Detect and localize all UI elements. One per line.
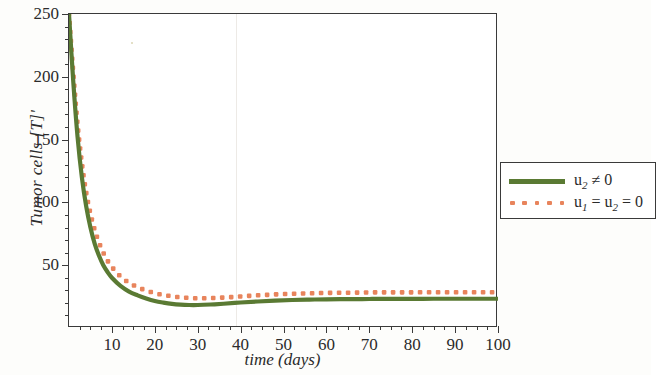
- x-axis-tick: [348, 326, 349, 330]
- x-axis-tick: [198, 326, 199, 333]
- plot-area: 50100150200250102030405060708090100: [68, 13, 497, 327]
- x-axis-tick: [498, 326, 499, 333]
- y-axis-tick: [62, 202, 69, 203]
- x-axis-tick: [477, 326, 478, 330]
- y-axis-tick: [65, 240, 69, 241]
- y-axis-tick-label: 250: [34, 4, 60, 24]
- x-axis-tick: [208, 326, 209, 330]
- x-axis-tick: [326, 326, 327, 333]
- legend-swatch-dotted-line: [509, 197, 565, 209]
- x-axis-tick: [251, 326, 252, 330]
- y-axis-tick: [65, 190, 69, 191]
- y-axis-tick: [65, 290, 69, 291]
- x-axis-tick: [434, 326, 435, 330]
- legend-label-u1-u2: u1 = u2 = 0: [574, 193, 643, 213]
- y-axis-tick: [65, 228, 69, 229]
- y-axis-tick: [65, 177, 69, 178]
- x-axis-tick: [144, 326, 145, 330]
- y-axis-tick: [62, 77, 69, 78]
- y-axis-tick: [65, 215, 69, 216]
- x-axis-tick: [305, 326, 306, 330]
- y-axis-tick: [65, 152, 69, 153]
- x-axis-tick: [359, 326, 360, 330]
- y-axis-tick: [65, 114, 69, 115]
- x-axis-tick: [337, 326, 338, 330]
- x-axis-tick: [487, 326, 488, 330]
- x-axis-tick: [176, 326, 177, 330]
- x-axis-tick: [273, 326, 274, 330]
- y-axis-tick: [65, 127, 69, 128]
- y-axis-tick: [62, 14, 69, 15]
- legend-dot: [547, 201, 552, 206]
- legend-entry-dotted: u1 = u2 = 0: [509, 192, 655, 214]
- x-axis-tick: [101, 326, 102, 330]
- y-axis-tick: [62, 265, 69, 266]
- y-axis-tick: [65, 253, 69, 254]
- x-axis-tick: [455, 326, 456, 333]
- x-axis-tick: [187, 326, 188, 330]
- x-axis-tick: [412, 326, 413, 333]
- y-axis-tick-label: 200: [34, 67, 60, 87]
- y-axis-tick: [62, 140, 69, 141]
- x-axis-tick: [369, 326, 370, 333]
- x-axis-tick: [112, 326, 113, 333]
- x-axis-tick: [401, 326, 402, 330]
- y-axis-tick: [65, 39, 69, 40]
- y-axis-tick: [65, 27, 69, 28]
- y-axis-tick: [65, 315, 69, 316]
- x-axis-tick: [262, 326, 263, 330]
- x-axis-tick: [241, 326, 242, 333]
- series-canvas: [69, 14, 498, 328]
- x-axis-tick: [80, 326, 81, 330]
- y-axis-tick-label: 150: [34, 130, 60, 150]
- series-solid-u2-nonzero: [69, 14, 498, 305]
- x-axis-tick: [155, 326, 156, 333]
- legend-box: u2 ≠ 0 u1 = u2 = 0: [500, 162, 656, 219]
- legend-dot: [522, 201, 527, 206]
- legend-label-u2: u2 ≠ 0: [574, 171, 612, 191]
- y-axis-title: Tumor cells [T]': [27, 63, 47, 273]
- y-axis-tick: [65, 165, 69, 166]
- y-axis-tick: [65, 303, 69, 304]
- x-axis-tick: [166, 326, 167, 330]
- legend-dot: [510, 201, 515, 206]
- x-axis-tick: [316, 326, 317, 330]
- x-axis-tick: [90, 326, 91, 330]
- x-axis-tick: [423, 326, 424, 330]
- x-axis-tick: [219, 326, 220, 330]
- y-axis-tick: [65, 64, 69, 65]
- x-axis-tick: [391, 326, 392, 330]
- y-axis-tick: [65, 89, 69, 90]
- y-axis-tick-label: 50: [42, 255, 59, 275]
- x-axis-tick: [123, 326, 124, 330]
- y-axis-tick-label: 100: [34, 192, 60, 212]
- legend-dot: [560, 201, 565, 206]
- x-axis-tick: [444, 326, 445, 330]
- x-axis-tick: [284, 326, 285, 333]
- x-axis-tick: [380, 326, 381, 330]
- legend-entry-solid: u2 ≠ 0: [509, 170, 655, 192]
- x-axis-tick: [466, 326, 467, 330]
- legend-dot: [535, 201, 540, 206]
- x-axis-tick: [230, 326, 231, 330]
- x-axis-title: time (days): [68, 350, 497, 370]
- y-axis-tick: [65, 52, 69, 53]
- series-dotted-u1-u2-zero: [69, 14, 494, 301]
- y-axis-tick: [65, 278, 69, 279]
- x-axis-tick: [294, 326, 295, 330]
- x-axis-tick: [133, 326, 134, 330]
- y-axis-tick: [65, 102, 69, 103]
- legend-swatch-solid-line: [509, 179, 565, 184]
